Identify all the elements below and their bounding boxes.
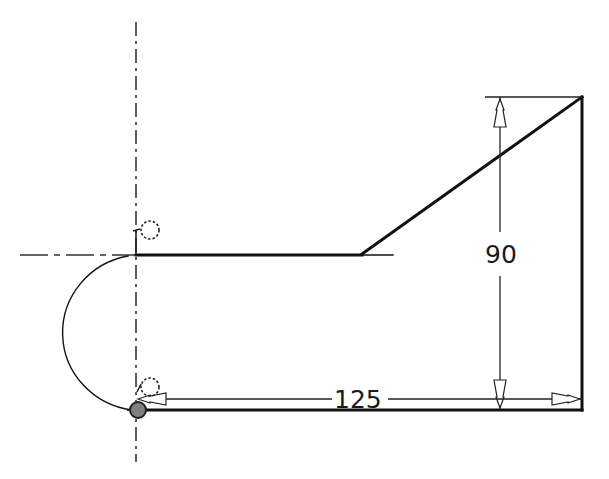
dimension-value-vertical[interactable]: 90	[484, 242, 518, 267]
arrow-down-icon	[494, 380, 506, 408]
arrow-up-icon	[494, 99, 506, 127]
tangent-constraint-bottom[interactable]	[137, 378, 159, 396]
diagonal-line[interactable]	[362, 97, 582, 254]
tangent-constraint-icon	[141, 221, 159, 239]
sketch-canvas[interactable]	[0, 0, 609, 479]
semicircle-arc[interactable]	[63, 256, 132, 410]
dimension-value-horizontal[interactable]: 125	[333, 387, 383, 412]
origin-point-icon	[130, 402, 146, 418]
centerlines	[20, 22, 136, 462]
tangent-constraint-top[interactable]	[133, 221, 159, 255]
origin-point[interactable]	[127, 402, 146, 418]
tangent-icon-tick	[133, 229, 140, 231]
tangent-constraint-icon	[141, 378, 159, 396]
arrow-right-icon	[552, 393, 580, 405]
